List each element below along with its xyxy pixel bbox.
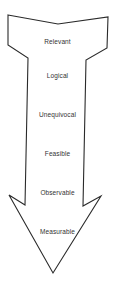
- label-logical: Logical: [0, 72, 115, 80]
- label-observable: Observable: [0, 189, 115, 197]
- label-feasible: Feasible: [0, 150, 115, 158]
- label-measurable: Measurable: [0, 228, 115, 236]
- label-relevant: Relevant: [0, 38, 115, 46]
- label-unequivocal: Unequivocal: [0, 111, 115, 119]
